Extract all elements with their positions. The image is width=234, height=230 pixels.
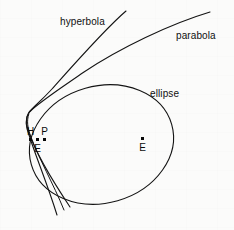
label-ellipse: ellipse bbox=[150, 89, 179, 99]
focus-dot-hyperbola bbox=[29, 138, 32, 141]
parabola-curve bbox=[26, 12, 210, 207]
label-parabola: parabola bbox=[176, 31, 216, 41]
label-parabola-focus: P bbox=[40, 127, 49, 137]
conic-sections-figure: hyperbola parabola ellipse H P E E bbox=[0, 0, 234, 230]
label-hyperbola: hyperbola bbox=[60, 17, 105, 27]
label-hyperbola-focus: H bbox=[26, 127, 35, 137]
hyperbola-curve bbox=[26, 11, 126, 215]
label-ellipse-focus-near: E bbox=[33, 144, 42, 154]
focus-dot-ellipse-far bbox=[141, 137, 144, 140]
focus-dot-parabola bbox=[43, 138, 46, 141]
focus-dot-ellipse-near bbox=[36, 138, 39, 141]
label-ellipse-focus-far: E bbox=[138, 143, 147, 153]
